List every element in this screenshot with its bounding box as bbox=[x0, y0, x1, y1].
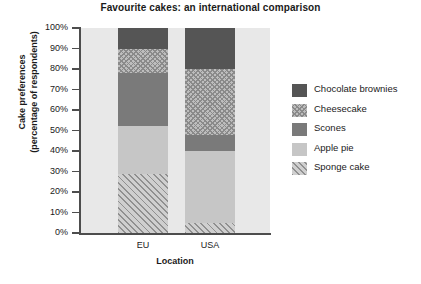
x-axis-title: Location bbox=[80, 256, 270, 266]
legend-swatch-icon bbox=[292, 104, 307, 117]
y-axis-tick bbox=[72, 150, 79, 152]
y-axis-tick bbox=[72, 48, 79, 50]
chart-container: Favourite cakes: an international compar… bbox=[0, 0, 421, 284]
bar-segment bbox=[185, 135, 235, 151]
y-axis-tick bbox=[72, 191, 79, 193]
y-axis-tick bbox=[72, 109, 79, 111]
chart-title: Favourite cakes: an international compar… bbox=[0, 2, 421, 13]
legend-label: Sponge cake bbox=[314, 161, 369, 172]
y-axis-tick bbox=[72, 232, 79, 234]
plot-area bbox=[80, 28, 270, 233]
y-axis-tick-label: 0% bbox=[24, 227, 68, 237]
bar-segment bbox=[118, 49, 168, 74]
legend-label: Apple pie bbox=[314, 142, 354, 153]
y-axis-title: Cake preferences (percentage of responde… bbox=[16, 0, 40, 192]
bar-segment bbox=[118, 126, 168, 173]
bar-segment bbox=[185, 151, 235, 223]
bar-segment bbox=[118, 73, 168, 126]
legend-label: Scones bbox=[314, 122, 346, 133]
y-axis-tick bbox=[72, 212, 79, 214]
legend-label: Chocolate brownies bbox=[314, 83, 397, 94]
y-axis-tick bbox=[72, 171, 79, 173]
y-axis-tick bbox=[72, 68, 79, 70]
legend-swatch-icon bbox=[292, 143, 307, 156]
x-axis-line bbox=[79, 233, 271, 235]
bar-segment bbox=[185, 223, 235, 233]
bar-segment bbox=[185, 69, 235, 135]
legend-swatch-icon bbox=[292, 162, 307, 175]
bar-eu bbox=[118, 28, 168, 233]
y-axis-tick-label: 10% bbox=[24, 207, 68, 217]
bar-segment bbox=[118, 174, 168, 233]
x-axis-label-usa: USA bbox=[170, 240, 250, 250]
y-axis-title-line2: (percentage of respondents) bbox=[28, 0, 40, 192]
legend-swatch-icon bbox=[292, 123, 307, 136]
y-axis-tick bbox=[72, 89, 79, 91]
y-axis-tick bbox=[72, 27, 79, 29]
bar-segment bbox=[118, 28, 168, 49]
bar-segment bbox=[185, 28, 235, 69]
y-axis-line bbox=[79, 27, 81, 234]
y-axis-tick bbox=[72, 130, 79, 132]
y-axis-title-line1: Cake preferences bbox=[17, 54, 27, 129]
bar-usa bbox=[185, 28, 235, 233]
legend-label: Cheesecake bbox=[314, 103, 367, 114]
legend-swatch-icon bbox=[292, 84, 307, 97]
